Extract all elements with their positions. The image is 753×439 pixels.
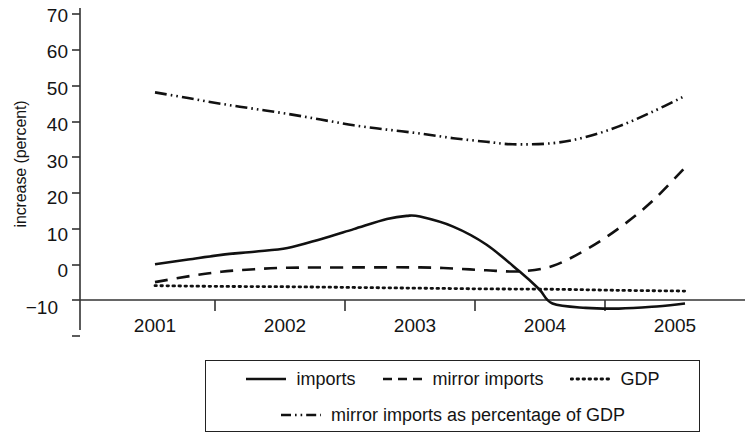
series-line-gdp (155, 286, 685, 291)
legend-label-gdp: GDP (621, 370, 660, 388)
legend-label-imports: imports (296, 370, 355, 388)
legend-item-imports[interactable]: imports (245, 370, 355, 388)
chart-figure: increase (percent) 70 60 50 40 30 20 10 … (0, 0, 753, 439)
series-line-imports (155, 215, 685, 308)
chart-legend: imports mirror imports GDP mirror (205, 360, 700, 432)
legend-row-top: imports mirror imports GDP (206, 361, 699, 397)
legend-swatch-dashed (382, 372, 424, 386)
legend-item-gdp[interactable]: GDP (570, 370, 660, 388)
series-line-mirror-imports-pct-gdp (155, 92, 685, 144)
legend-swatch-solid (245, 372, 287, 386)
y-axis-ticks (72, 14, 80, 336)
legend-swatch-dashdot (280, 408, 322, 422)
series-line-mirror-imports (155, 168, 685, 283)
x-axis-ticks (215, 300, 605, 311)
legend-swatch-dotted (570, 372, 612, 386)
legend-label-mirror-imports-pct-gdp: mirror imports as percentage of GDP (331, 406, 625, 424)
legend-row-bottom: mirror imports as percentage of GDP (206, 397, 699, 433)
legend-item-mirror-imports[interactable]: mirror imports (382, 370, 544, 388)
legend-item-mirror-imports-pct-gdp[interactable]: mirror imports as percentage of GDP (280, 406, 625, 424)
legend-label-mirror-imports: mirror imports (433, 370, 544, 388)
plot-area (0, 0, 753, 350)
